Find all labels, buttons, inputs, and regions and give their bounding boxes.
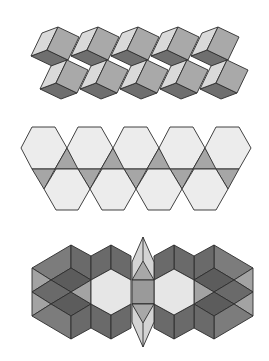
geometric-figure-canvas bbox=[0, 0, 269, 361]
hexagon-triangle-band bbox=[21, 127, 251, 210]
center-square bbox=[132, 280, 154, 304]
symmetric-rhombus-band bbox=[32, 237, 253, 347]
cube-tiling-band bbox=[31, 27, 248, 99]
